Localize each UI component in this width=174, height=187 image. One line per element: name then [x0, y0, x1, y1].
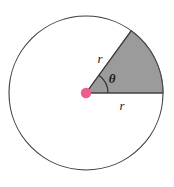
figure-canvas: r r θ	[0, 0, 174, 187]
angle-label-theta: θ	[109, 71, 116, 86]
center-point-marker	[81, 88, 91, 98]
circle-sector-diagram: r r θ	[0, 0, 174, 187]
